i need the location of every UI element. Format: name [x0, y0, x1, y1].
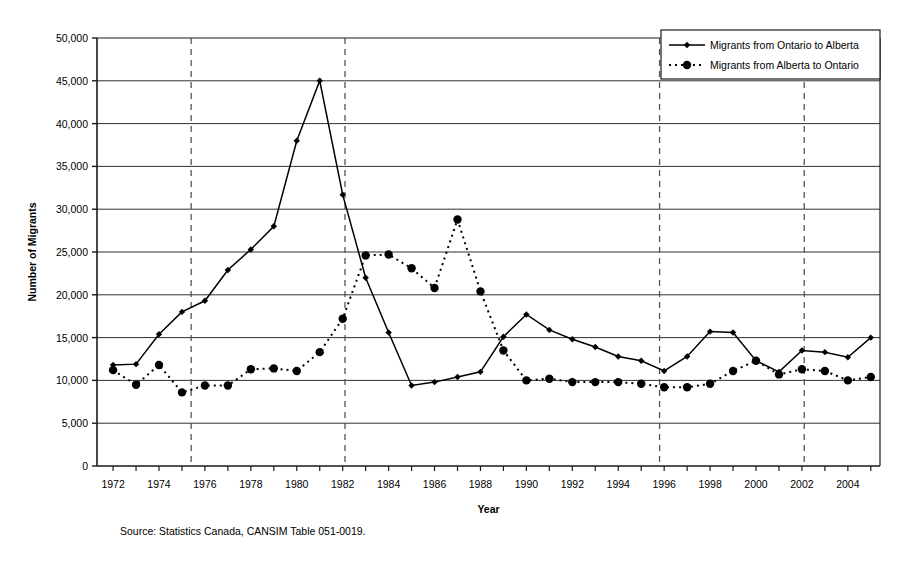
data-point — [706, 380, 714, 388]
y-axis-title: Number of Migrants — [26, 202, 38, 301]
data-point — [660, 383, 668, 391]
chart-figure: 05,00010,00015,00020,00025,00030,00035,0… — [0, 0, 910, 566]
x-tick-label: 1982 — [331, 478, 355, 490]
data-point — [867, 373, 875, 381]
y-tick-label: 5,000 — [62, 417, 88, 429]
x-tick-label: 1984 — [377, 478, 401, 490]
data-point — [476, 287, 484, 295]
data-point — [752, 357, 760, 365]
source-note: Source: Statistics Canada, CANSIM Table … — [120, 525, 366, 537]
data-point — [224, 381, 232, 389]
data-point — [637, 380, 645, 388]
x-tick-label: 1988 — [469, 478, 493, 490]
data-point — [453, 215, 461, 223]
y-tick-label: 15,000 — [56, 332, 88, 344]
data-point — [683, 383, 691, 391]
y-tick-label: 40,000 — [56, 118, 88, 130]
x-axis-ticks: 1972197419761978198019821984198619881990… — [101, 466, 870, 490]
y-axis-ticks: 05,00010,00015,00020,00025,00030,00035,0… — [56, 32, 97, 472]
data-point — [499, 346, 507, 354]
y-tick-label: 30,000 — [56, 203, 88, 215]
data-point — [545, 374, 553, 382]
data-point — [430, 284, 438, 292]
y-tick-label: 35,000 — [56, 160, 88, 172]
y-tick-label: 45,000 — [56, 75, 88, 87]
data-point — [798, 365, 806, 373]
legend-label: Migrants from Ontario to Alberta — [710, 39, 859, 51]
y-tick-label: 10,000 — [56, 374, 88, 386]
y-tick-label: 20,000 — [56, 289, 88, 301]
x-tick-label: 1998 — [698, 478, 722, 490]
x-tick-label: 1990 — [515, 478, 539, 490]
x-tick-label: 1978 — [239, 478, 263, 490]
data-point — [384, 250, 392, 258]
x-tick-label: 1986 — [423, 478, 447, 490]
legend-label: Migrants from Alberta to Ontario — [710, 59, 859, 71]
data-point — [775, 370, 783, 378]
data-point — [270, 364, 278, 372]
legend-box — [661, 30, 880, 79]
data-point — [568, 378, 576, 386]
x-tick-label: 1976 — [193, 478, 217, 490]
y-tick-label: 0 — [82, 460, 88, 472]
data-point — [247, 365, 255, 373]
data-point — [614, 378, 622, 386]
y-tick-label: 25,000 — [56, 246, 88, 258]
chart-svg: 05,00010,00015,00020,00025,00030,00035,0… — [0, 0, 910, 566]
x-tick-label: 1996 — [652, 478, 676, 490]
x-axis-title: Year — [477, 503, 499, 515]
y-tick-label: 50,000 — [56, 32, 88, 44]
data-point — [522, 376, 530, 384]
x-tick-label: 1972 — [101, 478, 125, 490]
data-point — [821, 367, 829, 375]
x-tick-label: 1980 — [285, 478, 309, 490]
chart-legend: Migrants from Ontario to AlbertaMigrants… — [661, 30, 880, 79]
x-tick-label: 1992 — [561, 478, 585, 490]
x-tick-label: 1994 — [607, 478, 631, 490]
data-point — [155, 361, 163, 369]
x-tick-label: 1974 — [147, 478, 171, 490]
x-tick-label: 2004 — [836, 478, 860, 490]
data-point — [316, 348, 324, 356]
legend-marker — [683, 61, 691, 69]
data-point — [201, 381, 209, 389]
data-point — [361, 251, 369, 259]
x-tick-label: 2002 — [790, 478, 814, 490]
data-point — [591, 378, 599, 386]
data-point — [293, 367, 301, 375]
data-point — [844, 376, 852, 384]
data-point — [178, 388, 186, 396]
data-point — [407, 264, 415, 272]
data-point — [729, 367, 737, 375]
x-tick-label: 2000 — [744, 478, 768, 490]
data-point — [109, 366, 117, 374]
data-point — [132, 380, 140, 388]
data-point — [338, 315, 346, 323]
